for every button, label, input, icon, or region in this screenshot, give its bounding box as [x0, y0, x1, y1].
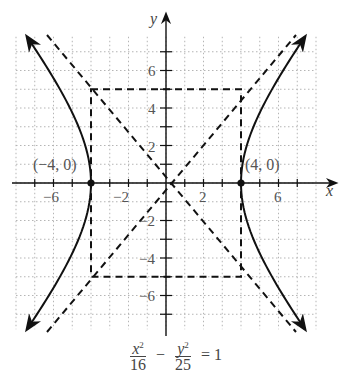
y-exponent: 2: [184, 340, 189, 350]
x-fraction: x2 16: [128, 338, 148, 372]
y-fraction: y2 25: [173, 338, 193, 372]
minus-sign: −: [156, 346, 165, 364]
x-tick-label-neg2: −2: [113, 189, 129, 205]
x-tick-label-6: 6: [274, 189, 282, 205]
y-axis-label: y: [148, 10, 158, 28]
x-axis-label: x: [325, 182, 333, 199]
vertex-left-point: [87, 179, 94, 186]
y-tick-label-6: 6: [148, 63, 156, 79]
vertex-left-label: (−4, 0): [33, 156, 77, 174]
x-exponent: 2: [139, 340, 144, 350]
y-tick-label-4: 4: [148, 101, 156, 117]
y-tick-label-2: 2: [148, 139, 156, 155]
x-tick-label-neg6: −6: [43, 189, 59, 205]
hyperbola-graph: (−4, 0) (4, 0) x y −6 −2 2 6 6 4 2 −2 −4…: [0, 0, 348, 376]
equation-caption: x2 16 − y2 25 = 1: [128, 338, 222, 372]
y-tick-label-neg2: −2: [139, 213, 155, 229]
y-tick-label-neg6: −6: [139, 288, 155, 304]
vertex-right-point: [237, 179, 244, 186]
y-denominator: 25: [173, 357, 193, 372]
x-tick-label-2: 2: [199, 189, 207, 205]
x-denominator: 16: [128, 357, 148, 372]
y-tick-label-neg4: −4: [139, 251, 155, 267]
vertex-right-label: (4, 0): [245, 156, 280, 174]
equals-one: = 1: [201, 346, 222, 364]
